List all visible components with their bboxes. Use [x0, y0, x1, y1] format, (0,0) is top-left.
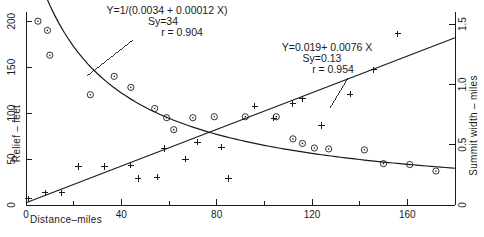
data-point-relief — [433, 168, 439, 174]
data-point-summit-width — [135, 175, 141, 181]
data-point-relief — [87, 92, 93, 98]
relief-annotation-r: r = 0.904 — [161, 26, 203, 38]
y2-tick-label: 1.0 — [457, 77, 468, 91]
data-point-relief — [35, 18, 41, 24]
relief-marker-dot — [166, 117, 168, 119]
data-point-summit-width — [154, 174, 160, 180]
relief-marker-dot — [49, 54, 51, 56]
relief-marker-dot — [435, 170, 437, 172]
y-tick-label: 0 — [6, 202, 17, 208]
data-point-relief — [152, 105, 158, 111]
data-point-summit-width — [42, 190, 48, 196]
data-point-relief — [311, 145, 317, 151]
relief-annotation-leader — [87, 40, 133, 76]
summit-annotation-r: r = 0.954 — [312, 63, 354, 75]
relief-marker-dot — [409, 164, 411, 166]
x-tick-label: 40 — [116, 209, 128, 220]
data-point-relief — [128, 84, 134, 90]
data-point-relief — [361, 147, 367, 153]
relief-marker-dot — [302, 143, 304, 145]
scatter-plot-figure: 05010015020000.51.01.504080120160 Y=1/(0… — [0, 0, 484, 237]
relief-marker-dot — [292, 138, 294, 140]
relief-marker-dot — [173, 129, 175, 131]
y2-axis-title: Summit width – miles — [468, 61, 479, 191]
relief-fit-curve — [36, 0, 455, 168]
y-axis-title: Relief – feet — [11, 99, 22, 169]
relief-marker-dot — [244, 116, 246, 118]
relief-marker-dot — [37, 20, 39, 22]
data-point-relief — [211, 114, 217, 120]
data-point-relief — [171, 127, 177, 133]
data-point-summit-width — [395, 31, 401, 37]
relief-marker-dot — [328, 148, 330, 150]
relief-marker-dot — [130, 87, 132, 89]
data-point-relief — [44, 27, 50, 33]
summit-width-fit-line — [26, 38, 455, 203]
y-tick-label: 200 — [6, 12, 17, 29]
x-tick-label: 80 — [211, 209, 223, 220]
data-point-relief — [190, 115, 196, 121]
relief-marker-dot — [213, 116, 215, 118]
data-point-summit-width — [252, 103, 258, 109]
relief-marker-dot — [113, 76, 115, 78]
data-point-relief — [290, 136, 296, 142]
relief-marker-dot — [275, 116, 277, 118]
data-point-summit-width — [75, 163, 81, 169]
data-point-summit-width — [225, 175, 231, 181]
x-tick-label: 120 — [304, 209, 321, 220]
x-tick-label: 160 — [399, 209, 416, 220]
y2-tick-label: 1.5 — [457, 17, 468, 31]
data-point-summit-width — [271, 115, 277, 121]
y2-tick-label: 0 — [457, 202, 468, 208]
relief-marker-dot — [90, 94, 92, 96]
x-tick-label: 0 — [23, 209, 29, 220]
plot-canvas: 05010015020000.51.01.504080120160 Y=1/(0… — [0, 0, 484, 237]
data-point-relief — [111, 73, 117, 79]
relief-marker-dot — [154, 108, 156, 110]
data-point-summit-width — [218, 144, 224, 150]
y2-tick-label: 0.5 — [457, 137, 468, 151]
data-point-relief — [299, 140, 305, 146]
data-point-summit-width — [182, 156, 188, 162]
data-point-relief — [47, 52, 53, 58]
relief-marker-dot — [192, 117, 194, 119]
relief-marker-dot — [383, 163, 385, 165]
data-point-summit-width — [194, 139, 200, 145]
x-axis-title: Distance–miles — [30, 214, 102, 225]
y-tick-label: 150 — [6, 58, 17, 75]
data-point-relief — [326, 146, 332, 152]
relief-marker-dot — [314, 147, 316, 149]
relief-marker-dot — [364, 149, 366, 151]
data-point-summit-width — [318, 122, 324, 128]
data-point-summit-width — [101, 163, 107, 169]
data-point-summit-width — [59, 190, 65, 196]
relief-marker-dot — [47, 30, 49, 32]
data-point-summit-width — [347, 91, 353, 97]
